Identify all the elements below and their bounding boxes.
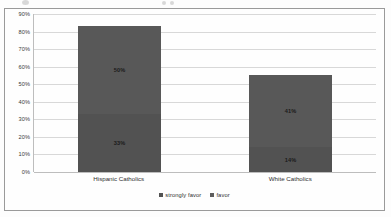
legend-swatch-icon — [210, 193, 214, 197]
bar-segment-favor[interactable]: 50% — [78, 26, 160, 114]
artifact-mark — [162, 1, 166, 5]
chart-page: 90%80%70%60%50%40%30%20%10%0% 33%50%14%4… — [0, 0, 391, 217]
chart-legend: strongly favorfavor — [5, 192, 384, 198]
y-axis: 90%80%70%60%50%40%30%20%10%0% — [5, 14, 33, 172]
y-axis-tick: 80% — [19, 29, 31, 35]
x-axis-category-label: Hispanic Catholics — [93, 175, 144, 182]
y-axis-tick: 10% — [19, 151, 31, 157]
y-axis-tick: 0% — [22, 169, 30, 175]
y-axis-tick: 40% — [19, 99, 31, 105]
y-axis-tick: 50% — [19, 81, 31, 87]
legend-swatch-icon — [159, 193, 163, 197]
legend-label: favor — [216, 192, 229, 198]
cropped-title-artifacts — [0, 0, 391, 7]
bar-value-label: 50% — [114, 67, 126, 73]
plot-wrapper: 90%80%70%60%50%40%30%20%10%0% 33%50%14%4… — [5, 9, 384, 210]
x-axis-category-label: White Catholics — [269, 175, 312, 182]
y-axis-tick: 60% — [19, 64, 31, 70]
x-axis: Hispanic CatholicsWhite Catholics — [33, 175, 376, 189]
bar-series: 33%50%14%41% — [34, 14, 376, 172]
bar-segment-favor[interactable]: 41% — [249, 75, 331, 147]
y-axis-tick: 90% — [19, 11, 31, 17]
artifact-mark — [22, 0, 29, 5]
y-axis-tick: 20% — [19, 134, 31, 140]
bar-value-label: 33% — [114, 140, 126, 146]
bar-segment-strongly-favor[interactable]: 14% — [249, 146, 331, 172]
legend-item[interactable]: strongly favor — [159, 192, 201, 198]
bar-value-label: 14% — [285, 157, 297, 163]
plot-area: 33%50%14%41% — [33, 14, 376, 172]
artifact-mark — [170, 1, 174, 5]
y-axis-tick: 70% — [19, 46, 31, 52]
bar-value-label: 41% — [285, 108, 297, 114]
bar-group[interactable]: 33%50% — [78, 26, 160, 172]
y-axis-tick: 30% — [19, 116, 31, 122]
legend-item[interactable]: favor — [210, 192, 229, 198]
legend-label: strongly favor — [165, 192, 201, 198]
bar-group[interactable]: 14%41% — [249, 75, 331, 172]
axis-baseline — [34, 172, 376, 173]
bar-segment-strongly-favor[interactable]: 33% — [78, 113, 160, 172]
chart-frame: 90%80%70%60%50%40%30%20%10%0% 33%50%14%4… — [4, 8, 385, 211]
